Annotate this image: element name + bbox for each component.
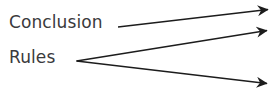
label-conclusion: Conclusion (9, 14, 103, 31)
label-rules: Rules (9, 49, 55, 66)
arrow-rules-lower (77, 61, 268, 84)
arrow-conclusion-line (118, 10, 268, 28)
arrow-rules-upper-line (77, 31, 268, 62)
diagram-canvas: Conclusion Rules (0, 0, 279, 111)
arrow-rules-upper (77, 31, 268, 62)
arrow-conclusion (118, 10, 268, 28)
arrow-rules-lower-line (77, 61, 268, 84)
